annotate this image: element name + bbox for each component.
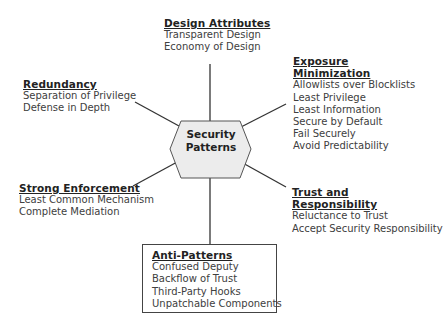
center-label: Security Patterns	[178, 128, 244, 154]
list-item: Reluctance to Trust	[292, 210, 443, 222]
list-item: Secure by Default	[293, 116, 415, 128]
list-item: Complete Mediation	[19, 206, 154, 218]
list-item: Least Information	[293, 104, 415, 116]
group-exposure-minimization: Exposure Minimization Allowlists over Bl…	[293, 55, 415, 153]
group-title: Design Attributes	[164, 17, 270, 29]
list-item: Separation of Privilege	[23, 90, 136, 102]
group-title: Strong Enforcement	[19, 182, 154, 194]
list-item: Backflow of Trust	[152, 273, 276, 285]
list-item: Third-Party Hooks	[152, 286, 276, 298]
center-label-line2: Patterns	[178, 141, 244, 154]
connector-redundancy	[135, 102, 179, 126]
connector-exposure-minimization	[241, 104, 286, 127]
list-item: Fail Securely	[293, 128, 415, 140]
list-item: Least Privilege	[293, 92, 415, 104]
list-item: Accept Security Responsibility	[292, 223, 443, 235]
group-title-line1: Exposure	[293, 55, 415, 67]
list-item: Confused Deputy	[152, 261, 276, 273]
connector-trust-responsibility	[241, 162, 286, 187]
group-title: Redundancy	[23, 78, 136, 90]
list-item: Avoid Predictability	[293, 140, 415, 152]
group-anti-patterns: Anti-Patterns Confused Deputy Backflow o…	[142, 244, 277, 313]
group-title-line2: Responsibility	[292, 198, 443, 210]
group-design-attributes: Design Attributes Transparent Design Eco…	[164, 17, 270, 54]
group-strong-enforcement: Strong Enforcement Least Common Mechanis…	[19, 182, 154, 219]
list-item: Unpatchable Components	[152, 298, 276, 310]
group-trust-responsibility: Trust and Responsibility Reluctance to T…	[292, 186, 443, 235]
group-title-line1: Trust and	[292, 186, 443, 198]
center-label-line1: Security	[178, 128, 244, 141]
list-item: Transparent Design	[164, 29, 270, 41]
list-item: Allowlists over Blocklists	[293, 79, 415, 91]
list-item: Defense in Depth	[23, 102, 136, 114]
list-item: Economy of Design	[164, 41, 270, 53]
group-title-line2: Minimization	[293, 67, 415, 79]
group-title: Anti-Patterns	[152, 249, 276, 261]
group-redundancy: Redundancy Separation of Privilege Defen…	[23, 78, 136, 115]
list-item: Least Common Mechanism	[19, 194, 154, 206]
